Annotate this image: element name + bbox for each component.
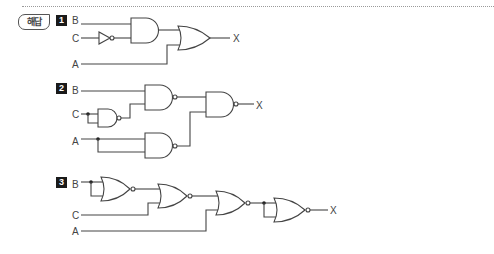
circuit-1-input-c: C (72, 33, 79, 44)
nand-gate-icon (98, 109, 117, 127)
circuit-1-input-a: A (72, 59, 79, 70)
nand-gate-icon (145, 85, 172, 110)
logic-circuits-diagram: B C A X B C A X (0, 0, 494, 254)
nand-gate-icon (145, 133, 172, 158)
circuit-3-input-c: C (72, 210, 79, 221)
circuit-1: B C A X (72, 15, 240, 70)
circuit-2-output-x: X (256, 100, 263, 111)
or-gate-icon (178, 26, 210, 50)
circuit-1-output-x: X (233, 33, 240, 44)
nand-gate-icon (206, 92, 234, 117)
circuit-2-input-a: A (72, 136, 79, 147)
circuit-3-output-x: X (330, 205, 337, 216)
nor-gate-icon (274, 198, 305, 222)
circuit-3-input-b: B (72, 179, 79, 190)
circuit-2-input-b: B (72, 85, 79, 96)
circuit-3: B C A X (72, 177, 337, 237)
circuit-2-input-c: C (72, 109, 79, 120)
circuit-3-input-a: A (72, 226, 79, 237)
nor-gate-icon (158, 184, 187, 208)
circuit-1-input-b: B (72, 15, 79, 26)
nor-gate-icon (101, 177, 130, 201)
circuit-2: B C A X (72, 85, 263, 158)
not-gate-icon (99, 32, 110, 44)
nor-gate-icon (216, 191, 245, 215)
and-gate-icon (131, 18, 158, 43)
